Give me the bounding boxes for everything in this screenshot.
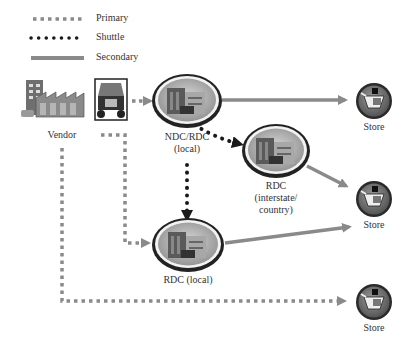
factory-truck-icon <box>21 79 127 120</box>
distribution-diagram <box>0 0 415 348</box>
ndc-label-line1: NDC/RDC <box>157 131 217 143</box>
vendor-label: Vendor <box>42 129 82 141</box>
store-2-label: Store <box>354 219 394 231</box>
rdc-interstate-label-line1: RDC <box>246 180 306 192</box>
store-1-label: Store <box>354 121 394 133</box>
rdc-interstate-label-line2: (interstate/ <box>246 192 306 204</box>
legend-label-shuttle: Shuttle <box>96 31 124 42</box>
primary-flow-vendor-to-rdc-local <box>101 135 148 243</box>
store-3-label: Store <box>354 322 394 334</box>
store-1-node <box>356 83 392 119</box>
ndc-label-line2: (local) <box>157 143 217 155</box>
rdc-interstate-label-line3: country) <box>246 204 306 216</box>
secondary-flow-rdc-interstate-to-store2 <box>307 166 346 186</box>
secondary-flow-rdc-local-to-store2 <box>225 227 349 243</box>
legend <box>31 19 84 58</box>
store-3-node <box>356 284 392 320</box>
ndc-rdc-node <box>152 74 222 128</box>
rdc-interstate-node <box>242 124 310 178</box>
legend-label-primary: Primary <box>96 12 128 23</box>
legend-label-secondary: Secondary <box>96 51 138 62</box>
store-2-node <box>356 181 392 217</box>
rdc-local-node <box>152 218 224 272</box>
rdc-local-label: RDC (local) <box>153 274 223 286</box>
